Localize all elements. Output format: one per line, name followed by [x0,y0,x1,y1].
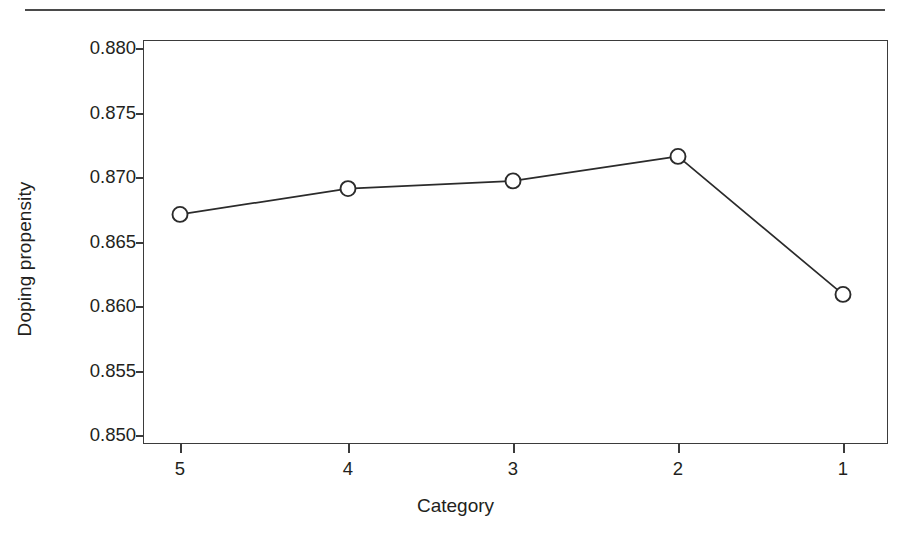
series-markers [173,149,851,302]
data-point-marker [173,207,188,222]
data-point-marker [671,149,686,164]
series-layer [0,0,911,547]
chart-figure: 0.880 0.875 0.870 0.865 0.860 0.855 0.85… [0,0,911,547]
x-axis-title: Category [0,495,911,517]
y-axis-title: Doping propensity [14,159,36,359]
data-point-marker [341,181,356,196]
data-point-marker [836,287,851,302]
data-point-marker [506,173,521,188]
